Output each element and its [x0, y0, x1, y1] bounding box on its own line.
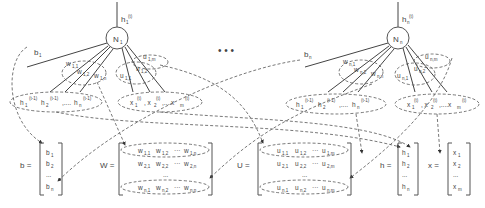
svg-text:b: b	[46, 149, 50, 156]
svg-text:u: u	[425, 53, 429, 60]
rnn-weight-diagram: N 1 h 1 (t) b1 w1,1 w1,2 w1,n u1,1 u1,2 …	[0, 0, 485, 208]
svg-text:2,2: 2,2	[300, 164, 307, 169]
svg-text:x: x	[453, 149, 457, 156]
svg-text:n,m: n,m	[430, 57, 438, 62]
svg-text:w: w	[155, 147, 161, 154]
svg-text:m: m	[458, 187, 462, 192]
svg-text:,....x: ,....x	[162, 99, 175, 106]
svg-text:h: h	[352, 101, 356, 108]
svg-text:n,2: n,2	[300, 188, 307, 193]
svg-text:...: ...	[302, 171, 308, 178]
svg-text:u: u	[277, 160, 281, 167]
svg-text:u: u	[322, 160, 326, 167]
svg-text:u: u	[143, 53, 147, 60]
svg-text:(t-1): (t-1)	[83, 96, 92, 101]
svg-text:1: 1	[412, 105, 415, 110]
svg-text:···: ···	[312, 184, 319, 191]
svg-text:h: h	[402, 183, 406, 190]
svg-text:2: 2	[323, 105, 326, 110]
svg-text:1,2: 1,2	[141, 69, 148, 74]
svg-text:1: 1	[25, 103, 28, 108]
svg-text:2,1: 2,1	[144, 164, 151, 169]
svg-text:1,1: 1,1	[144, 151, 151, 156]
neuron-1-label: N	[113, 35, 119, 44]
svg-text:···: ···	[174, 160, 181, 167]
neuron-1-output-label: h	[121, 15, 125, 24]
svg-text:n,1: n,1	[144, 188, 151, 193]
svg-text:1,2: 1,2	[162, 151, 169, 156]
svg-text:1,n: 1,n	[100, 76, 107, 81]
svg-text:2: 2	[46, 103, 49, 108]
ellipsis: • • •	[218, 45, 235, 56]
svg-text:2,n: 2,n	[190, 164, 197, 169]
svg-text:2,2: 2,2	[162, 164, 169, 169]
svg-text:n,2: n,2	[419, 69, 426, 74]
svg-text:w: w	[155, 184, 161, 191]
svg-text:1,1: 1,1	[282, 151, 289, 156]
svg-text:1,1: 1,1	[125, 76, 132, 81]
svg-text:u: u	[322, 147, 326, 154]
svg-text:2: 2	[154, 103, 157, 108]
matrix-u-label: U =	[237, 161, 250, 170]
svg-text:1: 1	[458, 153, 461, 158]
svg-text:(t-1): (t-1)	[305, 98, 314, 103]
svg-text:x: x	[453, 160, 457, 167]
svg-text:u: u	[295, 160, 299, 167]
svg-text:w: w	[137, 147, 143, 154]
neuron-n: Nn hn(t) bn wn,1 wn,2 wn,n un,1 un,2 un,…	[304, 2, 450, 92]
svg-text:h: h	[296, 101, 300, 108]
svg-text:w: w	[183, 184, 189, 191]
svg-text:(t-1): (t-1)	[29, 96, 38, 101]
neuron-1: N 1 h 1 (t) b1 w1,1 w1,2 w1,n u1,1 u1,2 …	[27, 2, 168, 92]
svg-text:1: 1	[135, 103, 138, 108]
svg-text:w: w	[183, 147, 189, 154]
svg-text:1: 1	[301, 105, 304, 110]
svg-text:w: w	[155, 160, 161, 167]
svg-text:...: ...	[453, 171, 459, 178]
svg-text:···: ···	[174, 184, 181, 191]
svg-text:u: u	[414, 65, 418, 72]
svg-text:(t): (t)	[128, 14, 133, 19]
svg-text:(t): (t)	[433, 98, 438, 103]
svg-text:u: u	[397, 72, 401, 79]
svg-text:h: h	[402, 149, 406, 156]
svg-text:(t): (t)	[414, 98, 419, 103]
svg-text:1: 1	[126, 20, 129, 25]
svg-text:n: n	[357, 105, 360, 110]
svg-text:u: u	[120, 72, 124, 79]
svg-text:n,1: n,1	[282, 188, 289, 193]
svg-text:u: u	[277, 147, 281, 154]
svg-text:2: 2	[51, 164, 54, 169]
svg-text:1,n: 1,n	[190, 151, 197, 156]
svg-text:···: ···	[312, 160, 319, 167]
svg-text:(t): (t)	[462, 98, 467, 103]
svg-text:h: h	[402, 160, 406, 167]
svg-text:h: h	[402, 15, 406, 24]
svg-text:w: w	[342, 58, 348, 65]
svg-text:...: ...	[46, 171, 52, 178]
svg-text:h: h	[41, 99, 45, 106]
svg-text:b: b	[46, 183, 50, 190]
matrix-x-label: x =	[428, 161, 439, 170]
svg-text:n: n	[407, 20, 410, 25]
svg-text:m: m	[180, 103, 184, 108]
svg-text:1: 1	[51, 153, 54, 158]
matrix-h-label: h =	[380, 161, 392, 170]
svg-text:1: 1	[407, 153, 410, 158]
svg-text:n: n	[51, 187, 54, 192]
svg-text:2: 2	[458, 164, 461, 169]
svg-text:u: u	[136, 65, 140, 72]
svg-text:(t): (t)	[156, 96, 161, 101]
svg-text:n,n: n,n	[377, 74, 384, 79]
svg-text:x: x	[130, 99, 134, 106]
svg-text:n,m: n,m	[327, 188, 335, 193]
svg-text:1,m: 1,m	[327, 151, 335, 156]
svg-text:m: m	[457, 105, 461, 110]
svg-text:h: h	[74, 99, 78, 106]
svg-text:, x: , x	[144, 99, 152, 106]
svg-text:w: w	[76, 68, 82, 75]
svg-text:1: 1	[39, 53, 42, 58]
svg-text:1,m: 1,m	[148, 57, 156, 62]
svg-text:w: w	[93, 72, 99, 79]
svg-text:n: n	[309, 55, 312, 60]
